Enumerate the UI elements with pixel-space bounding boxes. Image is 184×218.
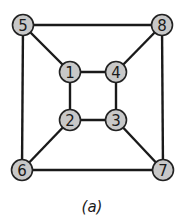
node-5: 5 bbox=[13, 15, 34, 36]
node-2: 2 bbox=[60, 110, 81, 131]
node-4: 4 bbox=[106, 62, 127, 83]
node-label: 5 bbox=[18, 17, 28, 35]
node-label: 4 bbox=[111, 64, 121, 82]
node-8: 8 bbox=[152, 15, 173, 36]
node-label: 2 bbox=[65, 112, 75, 130]
node-label: 7 bbox=[158, 162, 168, 180]
node-6: 6 bbox=[12, 160, 33, 181]
node-label: 1 bbox=[65, 64, 75, 82]
node-1: 1 bbox=[60, 62, 81, 83]
graph-diagram: 12345678 bbox=[0, 0, 184, 218]
node-label: 3 bbox=[111, 112, 121, 130]
node-3: 3 bbox=[106, 110, 127, 131]
figure-caption: (a) bbox=[0, 198, 184, 216]
node-label: 6 bbox=[17, 162, 27, 180]
edge-8-7 bbox=[162, 25, 163, 170]
edge-5-6 bbox=[22, 25, 23, 170]
edges-layer bbox=[22, 25, 163, 170]
node-7: 7 bbox=[153, 160, 174, 181]
node-label: 8 bbox=[157, 17, 167, 35]
